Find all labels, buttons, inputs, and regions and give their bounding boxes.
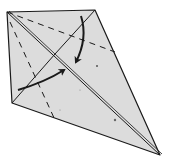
origami-diagram	[0, 0, 171, 157]
